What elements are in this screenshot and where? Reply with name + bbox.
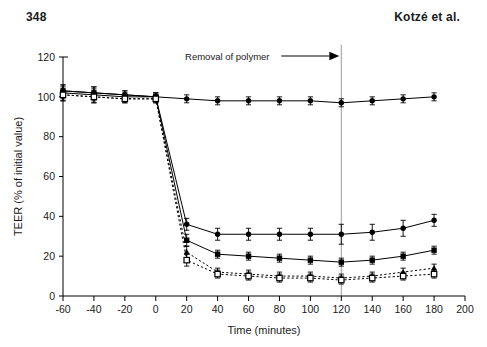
annotation-arrow-head — [329, 52, 339, 60]
x-axis-tick-label: 180 — [425, 303, 443, 315]
chart-svg: 020406080100120 -60-40-20020406080100120… — [0, 34, 487, 347]
y-axis-tick-label: 80 — [43, 130, 55, 142]
data-series-group — [60, 85, 437, 284]
figure-page: 348 Kotzé et al. 020406080100120 -60-40-… — [0, 0, 487, 347]
marker-open-square — [91, 94, 96, 99]
marker-open-square — [339, 277, 344, 282]
marker-filled-circle — [277, 232, 282, 237]
marker-filled-square — [339, 259, 344, 264]
marker-open-square — [370, 275, 375, 280]
marker-filled-square — [370, 257, 375, 262]
teer-line-chart: 020406080100120 -60-40-20020406080100120… — [0, 34, 487, 347]
y-axis-title: TEER (% of initial value) — [12, 117, 24, 236]
marker-filled-circle — [246, 98, 251, 103]
marker-open-square — [431, 271, 436, 276]
running-head-authors: Kotzé et al. — [394, 10, 460, 24]
marker-open-square — [308, 275, 313, 280]
marker-filled-circle — [215, 98, 220, 103]
marker-filled-circle — [339, 100, 344, 105]
marker-open-square — [215, 271, 220, 276]
marker-filled-circle — [246, 232, 251, 237]
page-header: 348 Kotzé et al. — [0, 10, 487, 30]
series-series-2 — [60, 85, 436, 244]
x-axis-tick-label: 200 — [456, 303, 474, 315]
x-axis-tick-label: 100 — [302, 303, 320, 315]
marker-open-square — [153, 96, 158, 101]
x-axis-tick-label: -20 — [117, 303, 132, 315]
marker-open-square — [184, 257, 189, 262]
marker-filled-circle — [277, 98, 282, 103]
marker-open-square — [277, 275, 282, 280]
marker-filled-circle — [184, 222, 189, 227]
y-axis-tick-label: 60 — [43, 170, 55, 182]
series-line — [63, 91, 434, 234]
page-number: 348 — [26, 10, 47, 24]
x-axis-title: Time (minutes) — [228, 324, 301, 336]
marker-filled-square — [308, 257, 313, 262]
x-axis-tick-label: 40 — [212, 303, 224, 315]
marker-filled-square — [215, 251, 220, 256]
marker-filled-circle — [184, 96, 189, 101]
x-axis-tick-label: 140 — [363, 303, 381, 315]
marker-filled-square — [246, 253, 251, 258]
annotation-group: Removal of polymer — [185, 51, 339, 62]
y-axis-tick-label: 120 — [37, 51, 55, 63]
marker-filled-square — [277, 255, 282, 260]
x-axis-tick-label: 80 — [274, 303, 286, 315]
x-axis-tick-label: -60 — [55, 303, 70, 315]
marker-filled-square — [431, 247, 436, 252]
marker-open-square — [122, 96, 127, 101]
marker-filled-circle — [215, 232, 220, 237]
x-axis-tick-label: 160 — [394, 303, 412, 315]
marker-open-square — [400, 273, 405, 278]
marker-filled-square — [400, 253, 405, 258]
marker-filled-circle — [339, 232, 344, 237]
marker-open-square — [246, 273, 251, 278]
marker-filled-circle — [308, 232, 313, 237]
marker-filled-circle — [370, 98, 375, 103]
annotation-label: Removal of polymer — [185, 51, 269, 62]
marker-filled-circle — [431, 94, 436, 99]
series-line — [63, 95, 434, 278]
x-axis-tick-label: -40 — [86, 303, 101, 315]
marker-filled-circle — [308, 98, 313, 103]
x-axis-tick-label: 0 — [153, 303, 159, 315]
x-axis-tick-label: 120 — [333, 303, 351, 315]
marker-filled-circle — [431, 218, 436, 223]
x-axis: -60-40-20020406080100120140160180200 — [55, 296, 474, 315]
y-axis-tick-label: 40 — [43, 210, 55, 222]
x-axis-tick-label: 20 — [181, 303, 193, 315]
marker-filled-circle — [400, 96, 405, 101]
y-axis-tick-label: 0 — [49, 290, 55, 302]
marker-filled-circle — [400, 226, 405, 231]
x-axis-tick-label: 60 — [243, 303, 255, 315]
marker-open-square — [60, 92, 65, 97]
y-axis-tick-label: 20 — [43, 250, 55, 262]
y-axis-tick-label: 100 — [37, 91, 55, 103]
marker-filled-circle — [370, 230, 375, 235]
